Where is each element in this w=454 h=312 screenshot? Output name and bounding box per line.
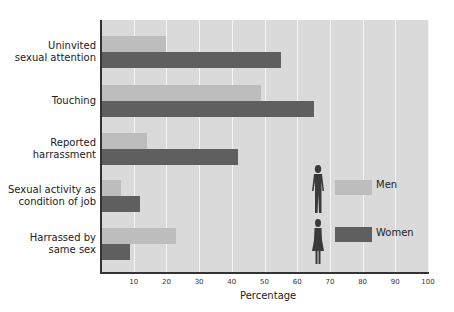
category-label: Touching (52, 95, 96, 107)
x-tick-label: 20 (162, 278, 171, 286)
category-label-line: Reported (33, 137, 96, 149)
x-tick-label: 60 (293, 278, 302, 286)
x-tick-label: 90 (391, 278, 400, 286)
x-axis-title: Percentage (240, 290, 296, 301)
y-axis-line (100, 20, 102, 274)
gridline (428, 20, 429, 273)
bar-women (101, 101, 314, 117)
bar-men (101, 85, 261, 101)
x-tick-label: 80 (358, 278, 367, 286)
category-label-line: Sexual activity as (8, 184, 96, 196)
legend-swatch-men (335, 180, 372, 195)
category-label-line: same sex (30, 244, 96, 256)
category-label-line: condition of job (8, 196, 96, 208)
gridline (297, 20, 298, 273)
category-label-line: sexual attention (15, 52, 96, 64)
category-label-line: Harrassed by (30, 232, 96, 244)
gridline (330, 20, 331, 273)
bar-men (101, 180, 121, 196)
bar-men (101, 228, 176, 244)
x-tick-label: 10 (129, 278, 138, 286)
category-label: Sexual activity ascondition of job (8, 184, 96, 208)
legend-label-men: Men (376, 179, 397, 190)
legend-label-women: Women (376, 227, 414, 238)
legend-swatch-women (335, 227, 372, 242)
bar-women (101, 196, 140, 212)
bar-men (101, 36, 166, 52)
x-tick-label: 70 (325, 278, 334, 286)
category-label: Harrassed bysame sex (30, 232, 96, 256)
x-tick-label: 40 (227, 278, 236, 286)
man-figure-icon (311, 164, 325, 216)
x-tick-label: 100 (421, 278, 434, 286)
category-label: Reportedharrassment (33, 137, 96, 161)
bar-men (101, 133, 147, 149)
bar-women (101, 52, 281, 68)
x-tick-label: 50 (260, 278, 269, 286)
woman-figure-icon (311, 218, 325, 266)
x-tick-label: 30 (195, 278, 204, 286)
category-label-line: Touching (52, 95, 96, 107)
category-label: Uninvitedsexual attention (15, 40, 96, 64)
bar-women (101, 149, 238, 165)
category-label-line: harrassment (33, 149, 96, 161)
x-axis-line (100, 272, 429, 274)
category-label-line: Uninvited (15, 40, 96, 52)
bar-women (101, 244, 130, 260)
